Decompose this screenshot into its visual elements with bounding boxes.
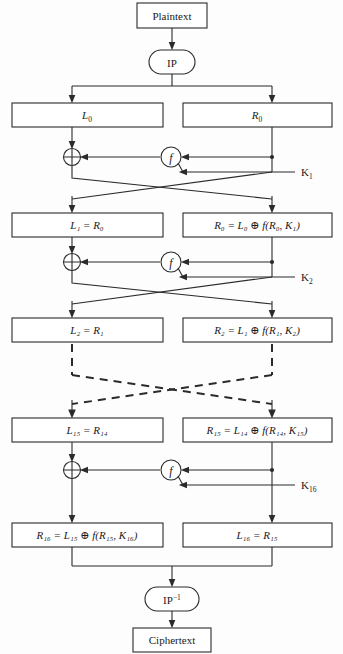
box-r15-label: R₁₅ = L₁₄ ⊕ f(R₁₄, K₁₅) <box>205 424 307 437</box>
box-l16-label: L₁₆ = R₁₅ <box>235 529 277 541</box>
edge-cross1-left-to-right <box>72 166 272 200</box>
key-label-k1: K1 <box>301 166 313 181</box>
edge-k2-elbow-2 <box>178 268 183 277</box>
box-l2-label: L₂ = R₁ <box>69 324 104 336</box>
box-r1-label: R₀ = L₀ ⊕ f(R₀, K₁) <box>213 219 300 232</box>
box-l1-label: L₁ = R₀ <box>69 219 104 231</box>
des-feistel-diagram: Plaintext IP L0 R0 f K1 L₁ = R₀ R₀ = L₀ … <box>0 0 343 654</box>
edge-cross2-right-to-left <box>72 277 272 304</box>
edge-cross2-left-to-right <box>72 271 272 305</box>
edge-cross1-right-to-left <box>72 172 272 199</box>
edge-k16-elbow-16 <box>178 476 183 485</box>
box-r2-label: R₂ = L₁ ⊕ f(R₁, K₂) <box>213 324 300 337</box>
ip-label: IP <box>167 57 177 69</box>
plaintext-label: Plaintext <box>152 10 191 22</box>
edge-k1-elbow-1 <box>178 163 183 172</box>
box-r16-label: R₁₆ = L₁₅ ⊕ f(R₁₅, K₁₆) <box>35 529 137 542</box>
key-label-k16: K16 <box>301 479 317 494</box>
ciphertext-label: Ciphertext <box>149 634 195 646</box>
box-l15-label: L₁₅ = R₁₄ <box>65 424 107 436</box>
edge-ip-split <box>72 74 272 86</box>
edge-merge-to-ipinv <box>72 547 272 566</box>
key-label-k2: K2 <box>301 271 313 286</box>
